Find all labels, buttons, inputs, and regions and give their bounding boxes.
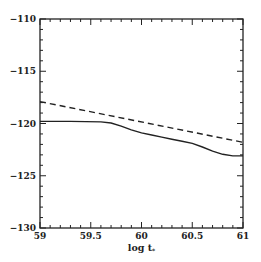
chart: 5959.56060.561−110−115−120−125−130 log t… (0, 0, 261, 262)
x-tick-label: 60.5 (181, 231, 203, 241)
y-tick-label: −120 (10, 119, 36, 129)
x-tick-label: 59.5 (80, 231, 102, 241)
x-tick-label: 61 (237, 231, 250, 241)
plot-frame (40, 19, 243, 228)
series-group (40, 102, 243, 156)
x-axis-label-text: log t (128, 242, 153, 253)
x-axis-label: log t* (128, 242, 155, 254)
tick-labels: 5959.56060.561−110−115−120−125−130 (10, 14, 250, 241)
axis-ticks (40, 19, 243, 228)
y-tick-label: −125 (10, 171, 36, 181)
series-line-solid (40, 121, 243, 155)
y-tick-label: −130 (10, 223, 36, 233)
y-tick-label: −115 (10, 66, 36, 76)
x-axis-label-subscript: * (152, 247, 155, 254)
x-tick-label: 60 (135, 231, 148, 241)
y-tick-label: −110 (10, 14, 36, 24)
